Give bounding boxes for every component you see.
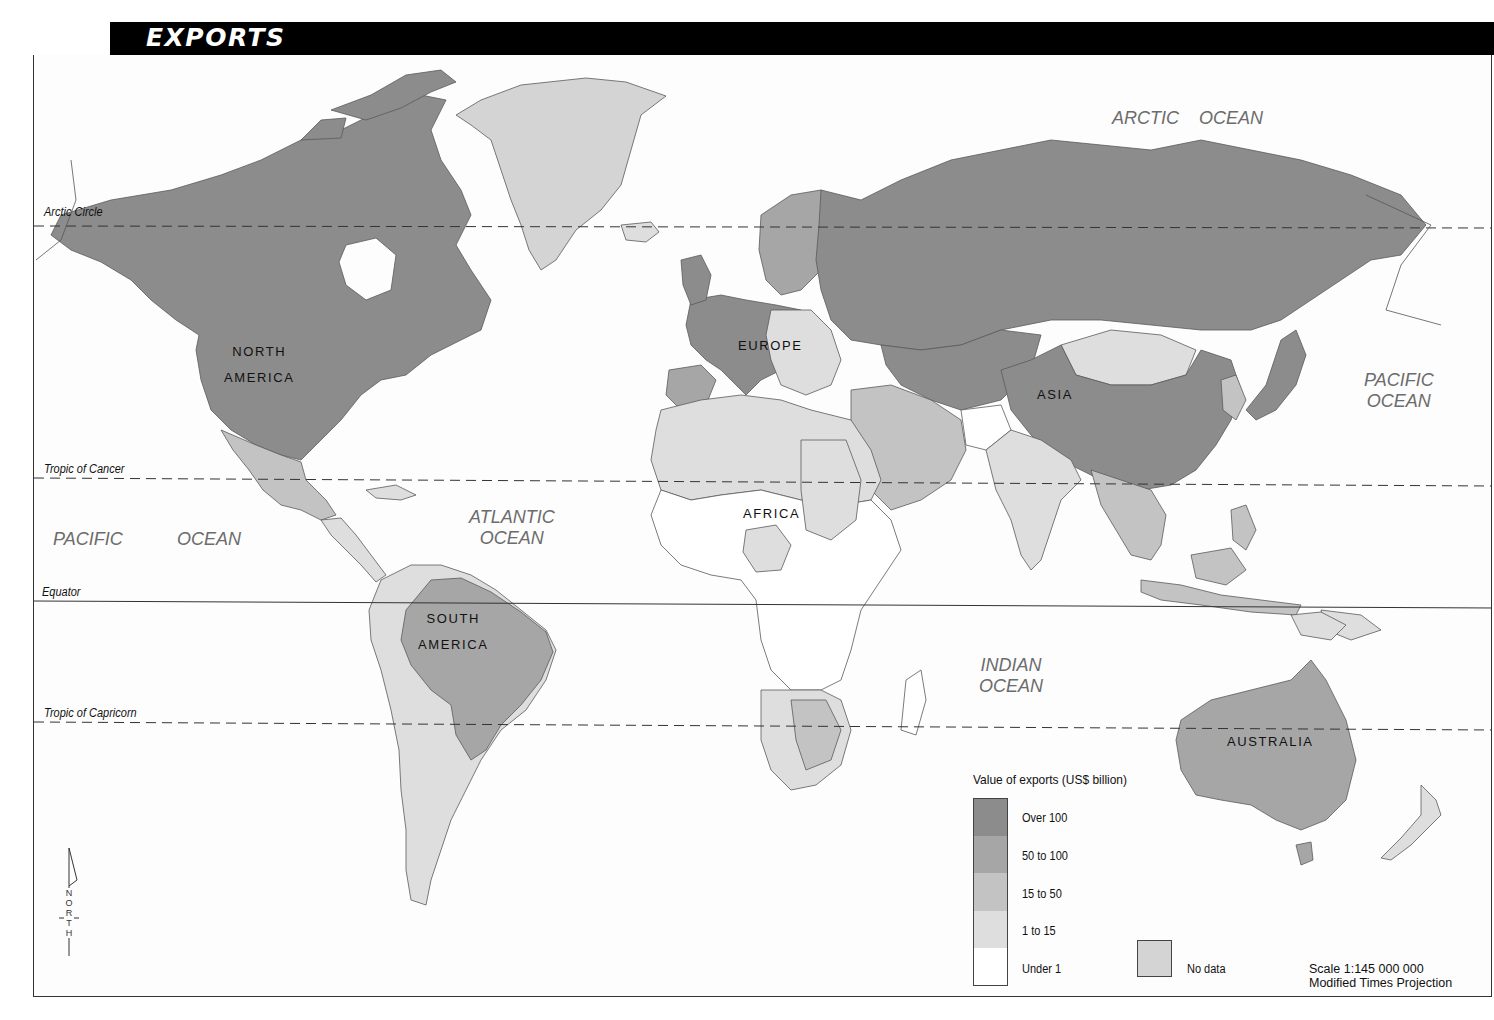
asia-label: ASIA <box>1037 382 1073 408</box>
north-letter: T <box>64 918 74 928</box>
south-america-line2: AMERICA <box>418 632 488 658</box>
region-iceland <box>621 222 659 242</box>
title-bar: EXPORTS <box>110 22 1494 55</box>
legend-swatch-15-50 <box>974 873 1007 910</box>
legend-label-15-50: 15 to 50 <box>1022 887 1062 901</box>
legend-title: Value of exports (US$ billion) <box>973 772 1127 787</box>
legend-swatch-50-100 <box>974 836 1007 873</box>
south-america-line1: SOUTH <box>418 606 488 632</box>
north-letter: O <box>64 898 74 908</box>
north-letter: N <box>64 888 74 898</box>
equator-label: Equator <box>42 585 81 599</box>
legend-color-ramp <box>973 798 1008 986</box>
legend-swatch-over-100 <box>974 799 1007 836</box>
pacific-east-line2: OCEAN <box>1364 391 1434 412</box>
legend-label-no-data: No data <box>1187 962 1226 976</box>
south-america-label: SOUTH AMERICA <box>418 606 488 658</box>
arctic-ocean-label: ARCTIC OCEAN <box>1112 108 1263 129</box>
arctic-circle-label: Arctic Circle <box>44 205 103 219</box>
tropic-of-cancer-label: Tropic of Cancer <box>44 462 124 476</box>
legend-label-50-100: 50 to 100 <box>1022 849 1068 863</box>
region-north-america <box>51 95 491 460</box>
north-letter: H <box>64 928 74 938</box>
atlantic-line1: ATLANTIC <box>469 507 555 528</box>
pacific-ocean-west-label-2: OCEAN <box>177 529 241 550</box>
pacific-ocean-west-label-1: PACIFIC <box>53 529 123 550</box>
legend-swatch-no-data <box>1137 940 1172 977</box>
region-indonesia <box>1141 580 1301 615</box>
legend-label-1-15: 1 to 15 <box>1022 924 1056 938</box>
pacific-east-line1: PACIFIC <box>1364 370 1434 391</box>
europe-label: EUROPE <box>738 333 803 359</box>
north-america-line1: NORTH <box>224 339 294 365</box>
legend-label-over-100: Over 100 <box>1022 811 1067 825</box>
indian-line1: INDIAN <box>979 655 1043 676</box>
pacific-ocean-east-label: PACIFIC OCEAN <box>1364 370 1434 412</box>
map-title: EXPORTS <box>146 23 286 52</box>
north-arrow-icon: N O R T H <box>57 846 87 966</box>
legend-swatch-under-1 <box>974 948 1007 985</box>
region-japan <box>1246 330 1306 420</box>
region-russia <box>816 140 1426 350</box>
scale-info: Scale 1:145 000 000 Modified Times Proje… <box>1309 962 1452 990</box>
atlantic-line2: OCEAN <box>469 528 555 549</box>
north-letter: R <box>64 908 74 918</box>
tropic-of-capricorn-label: Tropic of Capricorn <box>44 706 137 720</box>
legend-label-under-1: Under 1 <box>1022 962 1061 976</box>
north-letters: N O R T H <box>64 888 74 938</box>
africa-label: AFRICA <box>743 501 800 527</box>
map-frame: Arctic Circle Tropic of Cancer Equator T… <box>33 55 1492 997</box>
scale-ratio: Scale 1:145 000 000 <box>1309 962 1452 976</box>
atlantic-ocean-label: ATLANTIC OCEAN <box>469 507 555 549</box>
projection-name: Modified Times Projection <box>1309 976 1452 990</box>
australia-label: AUSTRALIA <box>1227 729 1314 755</box>
indian-line2: OCEAN <box>979 676 1043 697</box>
region-uk <box>681 255 711 305</box>
legend: Value of exports (US$ billion) Over 100 … <box>971 770 1471 997</box>
region-central-america <box>321 518 386 582</box>
indian-ocean-label: INDIAN OCEAN <box>979 655 1043 697</box>
north-america-label: NORTH AMERICA <box>224 339 294 391</box>
legend-swatch-1-15 <box>974 911 1007 948</box>
north-america-line2: AMERICA <box>224 365 294 391</box>
